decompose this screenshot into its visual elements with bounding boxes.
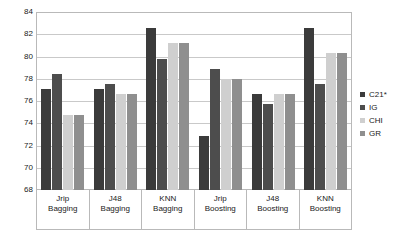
- y-axis-tick-label: 84: [3, 8, 33, 16]
- bar-chi: [168, 43, 178, 190]
- bar-gr: [179, 43, 189, 190]
- x-axis-label: J48Boosting: [247, 190, 300, 229]
- bar-c21: [146, 28, 156, 190]
- y-axis: 687072747678808284: [0, 12, 33, 190]
- legend-swatch-icon: [360, 92, 365, 97]
- x-axis-label-line: Jrip: [195, 194, 247, 204]
- bar-chi: [63, 115, 73, 190]
- x-axis-label-line: Boosting: [300, 204, 352, 214]
- legend-swatch-icon: [360, 118, 365, 123]
- y-axis-tick-label: 74: [3, 119, 33, 127]
- bar-ig: [105, 84, 115, 190]
- bar-chi: [326, 53, 336, 190]
- y-axis-tick-label: 70: [3, 164, 33, 172]
- legend-label: IG: [369, 104, 377, 112]
- bar-ig: [157, 59, 167, 190]
- bar-gr: [74, 115, 84, 190]
- bar-c21: [199, 136, 209, 191]
- x-axis-label-line: KNN: [142, 194, 194, 204]
- bar-gr: [337, 53, 347, 190]
- legend-swatch-icon: [360, 131, 365, 136]
- bar-chart: 687072747678808284 JripBaggingJ48Bagging…: [0, 0, 409, 237]
- legend-item: CHI: [360, 114, 408, 127]
- legend-label: C21*: [369, 91, 387, 99]
- bar-group: [141, 12, 194, 190]
- bar-gr: [285, 94, 295, 190]
- y-axis-tick-label: 72: [3, 142, 33, 150]
- bar-ig: [263, 104, 273, 190]
- x-axis-label: JripBagging: [37, 190, 90, 229]
- legend-label: GR: [369, 130, 381, 138]
- x-axis-label-line: Boosting: [247, 204, 299, 214]
- x-axis-label: JripBoosting: [195, 190, 248, 229]
- x-axis-label: KNNBoosting: [300, 190, 352, 229]
- x-axis-label-line: Boosting: [195, 204, 247, 214]
- bar-c21: [41, 89, 51, 190]
- y-axis-tick-label: 68: [3, 186, 33, 194]
- x-axis-label: KNNBagging: [142, 190, 195, 229]
- y-axis-tick-label: 80: [3, 53, 33, 61]
- x-axis-label-line: Bagging: [90, 204, 142, 214]
- bar-chi: [274, 94, 284, 190]
- bar-gr: [127, 94, 137, 190]
- x-axis-label-line: Bagging: [37, 204, 89, 214]
- y-axis-tick-label: 78: [3, 75, 33, 83]
- x-axis-label-line: J48: [90, 194, 142, 204]
- bar-group: [247, 12, 300, 190]
- bar-ig: [210, 69, 220, 190]
- bar-group: [299, 12, 352, 190]
- x-axis-label-line: Jrip: [37, 194, 89, 204]
- bar-ig: [315, 84, 325, 190]
- legend-item: IG: [360, 101, 408, 114]
- y-axis-tick-label: 82: [3, 30, 33, 38]
- bar-chi: [116, 94, 126, 190]
- legend-label: CHI: [369, 117, 383, 125]
- bar-chi: [221, 79, 231, 190]
- bar-c21: [94, 89, 104, 190]
- bar-group: [36, 12, 89, 190]
- x-axis-label-line: J48: [247, 194, 299, 204]
- bar-group: [89, 12, 142, 190]
- x-axis-label: J48Bagging: [90, 190, 143, 229]
- bar-c21: [252, 94, 262, 190]
- bar-group: [194, 12, 247, 190]
- x-axis-label-line: KNN: [300, 194, 352, 204]
- bar-c21: [304, 28, 314, 190]
- y-axis-tick-label: 76: [3, 97, 33, 105]
- bar-gr: [232, 79, 242, 190]
- legend-item: GR: [360, 127, 408, 140]
- legend-item: C21*: [360, 88, 408, 101]
- x-axis-label-line: Bagging: [142, 204, 194, 214]
- legend-swatch-icon: [360, 105, 365, 110]
- bars-layer: [36, 12, 352, 190]
- chart-legend: C21*IGCHIGR: [360, 88, 408, 140]
- bar-ig: [52, 74, 62, 190]
- x-axis-category-labels: JripBaggingJ48BaggingKNNBaggingJripBoost…: [36, 190, 352, 230]
